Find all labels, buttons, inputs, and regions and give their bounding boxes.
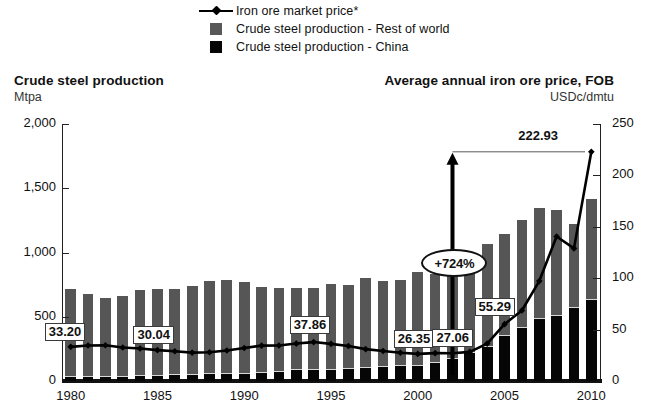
price-data-label: 222.93 (515, 128, 561, 144)
price-data-label: 26.35 (394, 330, 435, 348)
price-data-label: 37.86 (290, 316, 331, 334)
y-tick-mark-right (593, 175, 600, 176)
y-tick-mark-left (62, 124, 69, 125)
y-tick-mark-left (62, 188, 69, 189)
growth-arrow-icon (0, 0, 656, 410)
y-tick-mark-left (62, 317, 69, 318)
price-data-label: 30.04 (133, 326, 174, 344)
growth-callout: +724% (421, 249, 487, 277)
price-data-label: 27.06 (432, 329, 473, 347)
y-tick-mark-right (593, 227, 600, 228)
y-tick-mark-right (593, 278, 600, 279)
y-tick-mark-left (62, 253, 69, 254)
y-tick-mark-right (593, 124, 600, 125)
y-tick-mark-right (593, 330, 600, 331)
price-data-label: 55.29 (475, 298, 516, 316)
iron-ore-steel-chart: Iron ore market price* Crude steel produ… (0, 0, 656, 410)
price-data-label: 33.20 (45, 323, 86, 341)
arrow-head (446, 153, 458, 165)
